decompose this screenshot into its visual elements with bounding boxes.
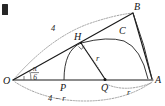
page-edge-mark: [2, 4, 8, 15]
point-label-A: A: [154, 74, 162, 85]
figure-canvas: O A B H C P Q 4 4 − r r r π 6: [0, 0, 165, 106]
segment-OB: [13, 13, 133, 80]
point-label-B: B: [134, 1, 140, 12]
geometry-figure: O A B H C P Q 4 4 − r r r π 6: [0, 0, 165, 106]
length-label-r-QA: r: [127, 87, 131, 97]
dotted-arc-OA-bottom: [15, 82, 152, 101]
angle-arc-AOB: [30, 71, 32, 81]
angle-label-denominator: 6: [33, 73, 37, 82]
length-label-r-QH: r: [96, 53, 100, 63]
point-label-P: P: [59, 82, 66, 93]
point-label-C: C: [119, 25, 126, 36]
point-dot-H: [80, 42, 82, 44]
point-label-H: H: [73, 31, 82, 42]
segment-QH: [81, 43, 105, 79]
segment-BA: [133, 13, 152, 79]
point-dot-Q: [104, 78, 107, 81]
point-label-Q: Q: [101, 82, 109, 93]
point-label-O: O: [3, 75, 10, 86]
length-label-radius-4: 4: [51, 23, 56, 33]
arc-PH-circle: [64, 43, 81, 80]
length-label-4-minus-r: 4 − r: [48, 93, 66, 103]
